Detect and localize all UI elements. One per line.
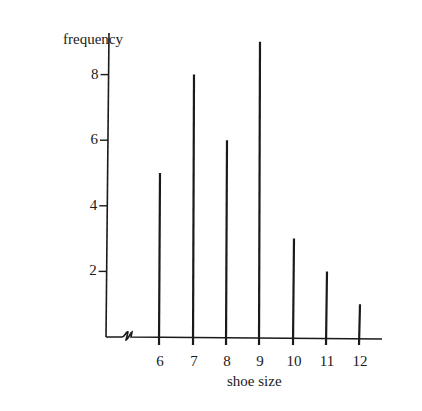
x-axis-with-break [106, 332, 382, 340]
bar-shoe-size-10 [293, 239, 294, 345]
x-tick-label-9: 9 [256, 354, 264, 369]
bar-shoe-size-7 [193, 75, 194, 345]
x-tick-label-11: 11 [320, 354, 334, 369]
x-tick-label-8: 8 [223, 354, 231, 369]
bar-shoe-size-11 [326, 271, 327, 345]
y-tick-label-2: 2 [89, 263, 97, 278]
x-tick-label-6: 6 [156, 354, 164, 369]
frequency-line-chart [0, 0, 422, 411]
bar-shoe-size-12 [359, 304, 360, 345]
x-axis-label: shoe size [227, 374, 282, 389]
y-tick-label-4: 4 [90, 198, 98, 213]
y-tick-label-8: 8 [91, 67, 99, 82]
bar-shoe-size-9 [259, 42, 260, 345]
x-tick-label-10: 10 [287, 354, 302, 369]
y-axis [106, 33, 109, 337]
bar-shoe-size-6 [159, 173, 160, 345]
bar-shoe-size-8 [226, 140, 227, 345]
y-tick-label-6: 6 [90, 132, 98, 147]
x-tick-label-7: 7 [190, 354, 198, 369]
x-tick-label-12: 12 [353, 354, 368, 369]
y-axis-label: frequency [63, 32, 123, 47]
